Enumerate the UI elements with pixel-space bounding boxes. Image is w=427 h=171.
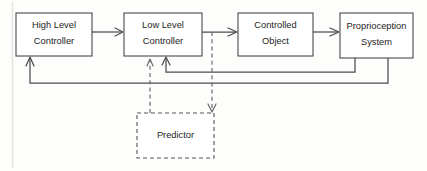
node-high-level-controller[interactable]: High Level Controller <box>16 13 92 56</box>
node-proprioception-system[interactable]: Proprioception System <box>340 13 413 58</box>
controlled-object-label-line2: Object <box>262 36 289 46</box>
edge-llc-to-object <box>202 28 237 36</box>
diagram-canvas: High Level Controller Low Level Controll… <box>0 0 427 171</box>
edge-proprioception-to-hlc-feedback <box>26 57 388 83</box>
high-level-controller-label-line1: High Level <box>32 20 76 30</box>
proprioception-system-label-line2: System <box>361 37 392 47</box>
edge-predictor-to-llc <box>147 59 153 113</box>
proprioception-system-label-line1: Proprioception <box>347 21 407 31</box>
edge-proprioception-to-llc-feedback <box>162 57 355 72</box>
block-diagram: High Level Controller Low Level Controll… <box>0 0 427 171</box>
low-level-controller-label-line2: Controller <box>143 36 183 46</box>
high-level-controller-label-line2: Controller <box>34 36 74 46</box>
node-predictor[interactable]: Predictor <box>137 113 214 158</box>
node-controlled-object[interactable]: Controlled Object <box>238 13 313 56</box>
node-low-level-controller[interactable]: Low Level Controller <box>124 13 202 56</box>
predictor-label: Predictor <box>157 130 194 140</box>
edge-hlc-to-llc <box>92 28 123 36</box>
controlled-object-label-line1: Controlled <box>254 20 296 30</box>
edge-object-to-proprioception <box>313 28 339 36</box>
low-level-controller-label-line1: Low Level <box>142 20 184 30</box>
